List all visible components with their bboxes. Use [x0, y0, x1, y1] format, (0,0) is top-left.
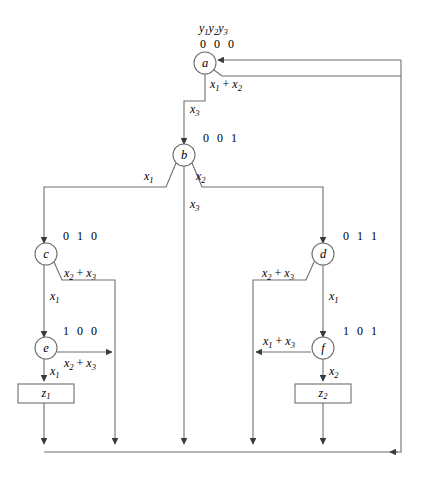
node-d[interactable]: d	[312, 243, 334, 265]
node-c[interactable]: c	[35, 243, 57, 265]
edge-label-c-to-bus: x2 + x3	[63, 266, 96, 282]
edge-label-e-to-bus: x2 + x3	[63, 356, 96, 372]
node-b-label: b	[181, 148, 187, 162]
state-code-d: 0 1 1	[343, 229, 380, 243]
state-variable-header: y1y2y3	[198, 21, 228, 37]
edge-label-f-to-bus: x1 + x3	[262, 334, 295, 350]
edge-label-b-to-c: x1	[143, 169, 154, 185]
node-a[interactable]: a	[194, 52, 216, 74]
bus-return-riser	[390, 60, 401, 452]
edge-c-to-bus	[54, 262, 115, 444]
state-diagram-canvas: a b c d e f z1 z2	[0, 0, 422, 479]
edge-label-e-to-z1: x1	[49, 364, 60, 380]
node-a-label: a	[202, 56, 208, 70]
edge-label-a-to-b: x3	[189, 102, 200, 118]
node-d-label: d	[320, 247, 327, 261]
edge-d-to-bus	[253, 262, 314, 444]
node-f[interactable]: f	[312, 337, 334, 359]
state-diagram-svg: a b c d e f z1 z2	[0, 0, 422, 479]
node-c-label: c	[43, 247, 49, 261]
edge-label-c-to-e: x1	[49, 289, 60, 305]
output-box-z2[interactable]: z2	[295, 384, 351, 403]
edge-label-b-to-bus: x3	[189, 197, 200, 213]
state-code-a: 0 0 0	[200, 37, 237, 51]
node-b[interactable]: b	[173, 144, 195, 166]
state-code-f: 1 0 1	[343, 324, 380, 338]
edge-label-d-to-f: x1	[328, 289, 339, 305]
node-e-label: e	[43, 341, 49, 355]
node-e[interactable]: e	[35, 337, 57, 359]
edge-label-d-to-bus: x2 + x3	[261, 266, 294, 282]
edge-label-b-to-d: x2	[195, 169, 206, 185]
edge-label-a-to-bus: x1 + x2	[209, 77, 243, 93]
state-code-c: 0 1 0	[63, 229, 100, 243]
edge-b-to-d	[192, 163, 323, 243]
edge-label-f-to-z2: x2	[328, 364, 339, 380]
state-code-b: 0 0 1	[203, 131, 240, 145]
output-box-z1[interactable]: z1	[18, 384, 74, 403]
state-code-e: 1 0 0	[63, 324, 100, 338]
edge-a-to-bus	[214, 70, 401, 76]
